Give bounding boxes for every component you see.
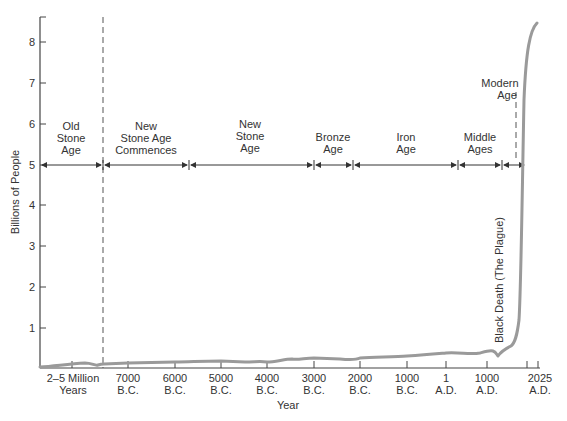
svg-text:B.C.: B.C.	[210, 384, 231, 396]
svg-text:B.C.: B.C.	[349, 384, 370, 396]
svg-text:B.C.: B.C.	[396, 384, 417, 396]
y-axis-title: Billions of People	[9, 150, 21, 234]
svg-text:Modern: Modern	[481, 77, 518, 89]
y-ticks: 8 7 6 5 4 3 2 1	[29, 36, 46, 334]
population-curve	[40, 23, 537, 367]
svg-text:New: New	[135, 120, 157, 132]
svg-text:2000: 2000	[348, 372, 372, 384]
svg-text:Commences: Commences	[115, 144, 177, 156]
svg-text:5000: 5000	[209, 372, 233, 384]
population-chart: 8 7 6 5 4 3 2 1 Billions of People 2–5 M…	[0, 0, 567, 421]
svg-text:A.D.: A.D.	[476, 384, 497, 396]
svg-text:2–5 Million: 2–5 Million	[47, 372, 100, 384]
y-tick-label: 3	[29, 240, 35, 252]
svg-text:1000: 1000	[395, 372, 419, 384]
era-labels: Old Stone Age New Stone Age Commences Ne…	[57, 77, 519, 156]
era-arrows	[42, 160, 524, 170]
x-axis-title: Year	[277, 399, 300, 411]
svg-text:Ages: Ages	[467, 143, 493, 155]
svg-text:7000: 7000	[116, 372, 140, 384]
svg-text:4000: 4000	[255, 372, 279, 384]
x-tick-labels: 2–5 Million Years 7000 B.C. 6000 B.C. 50…	[47, 372, 553, 396]
svg-text:Age: Age	[396, 143, 416, 155]
svg-text:Age: Age	[61, 144, 81, 156]
svg-text:Stone Age: Stone Age	[121, 132, 172, 144]
svg-text:Age: Age	[497, 89, 517, 101]
svg-text:Age: Age	[240, 142, 260, 154]
y-tick-label: 1	[29, 322, 35, 334]
svg-text:1: 1	[443, 372, 449, 384]
black-death-label: Black Death (The Plague)	[493, 217, 505, 343]
svg-text:Iron: Iron	[397, 131, 416, 143]
svg-text:B.C.: B.C.	[303, 384, 324, 396]
svg-text:Old: Old	[62, 120, 79, 132]
svg-text:New: New	[239, 118, 261, 130]
y-tick-label: 2	[29, 281, 35, 293]
y-tick-label: 5	[29, 159, 35, 171]
svg-text:Stone: Stone	[57, 132, 86, 144]
svg-text:3000: 3000	[302, 372, 326, 384]
svg-text:Bronze: Bronze	[316, 131, 351, 143]
y-tick-label: 8	[29, 36, 35, 48]
svg-text:2025: 2025	[528, 372, 552, 384]
y-tick-label: 7	[29, 77, 35, 89]
y-tick-label: 4	[29, 199, 35, 211]
svg-text:Years: Years	[59, 384, 87, 396]
svg-text:A.D.: A.D.	[435, 384, 456, 396]
svg-text:B.C.: B.C.	[256, 384, 277, 396]
svg-text:Stone: Stone	[236, 130, 265, 142]
y-tick-label: 6	[29, 118, 35, 130]
svg-text:A.D.: A.D.	[529, 384, 550, 396]
svg-text:1000: 1000	[475, 372, 499, 384]
svg-text:Middle: Middle	[464, 131, 496, 143]
svg-text:Age: Age	[323, 143, 343, 155]
svg-text:B.C.: B.C.	[164, 384, 185, 396]
svg-text:B.C.: B.C.	[117, 384, 138, 396]
svg-text:6000: 6000	[163, 372, 187, 384]
